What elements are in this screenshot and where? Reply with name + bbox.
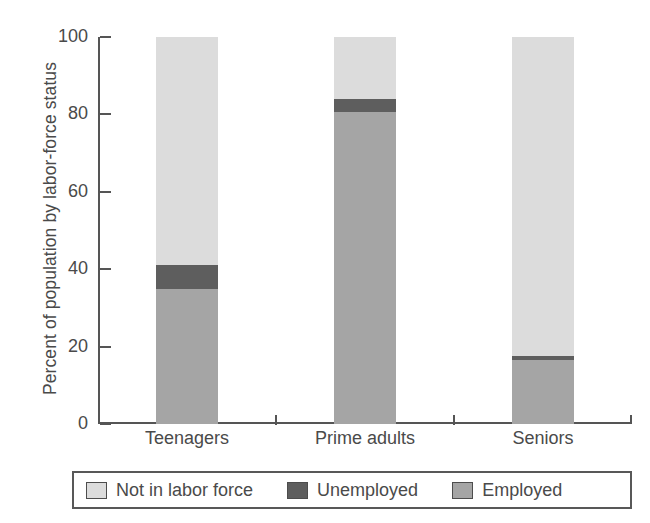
y-axis-tick	[100, 346, 111, 348]
axis-corner-tick-bottom-right	[630, 415, 632, 424]
y-axis-tick-label: 80	[34, 104, 88, 122]
bar-seniors	[512, 37, 574, 424]
x-axis-label: Prime adults	[276, 428, 454, 449]
y-axis-tick-label: 60	[34, 182, 88, 200]
legend-swatch-icon	[452, 482, 473, 499]
bar-segment-unemployed	[512, 356, 574, 360]
bar-segment-unemployed	[334, 99, 396, 113]
bar-segment-not-in-labor-force	[512, 37, 574, 356]
legend-item: Not in labor force	[86, 481, 253, 499]
y-axis-tick-label: 0	[34, 414, 88, 432]
x-axis-tick	[275, 415, 277, 425]
legend-swatch-icon	[287, 482, 308, 499]
legend-item: Unemployed	[287, 481, 418, 499]
bar-segment-employed	[334, 112, 396, 424]
y-axis-title: Percent of population by labor-force sta…	[40, 29, 61, 429]
stacked-bar-chart: Percent of population by labor-force sta…	[0, 0, 650, 523]
bar-segment-not-in-labor-force	[334, 37, 396, 99]
bar-segment-not-in-labor-force	[156, 37, 218, 265]
legend-label: Employed	[482, 481, 562, 499]
bar-segment-unemployed	[156, 265, 218, 288]
axis-corner-tick-top-left	[98, 37, 100, 46]
x-axis-label: Teenagers	[98, 428, 276, 449]
y-axis-tick	[100, 191, 111, 193]
bar-segment-employed	[156, 289, 218, 424]
y-axis-tick-label: 20	[34, 337, 88, 355]
bar-prime-adults	[334, 37, 396, 424]
bar-segment-employed	[512, 360, 574, 424]
x-axis-label: Seniors	[454, 428, 632, 449]
bar-teenagers	[156, 37, 218, 424]
legend-label: Not in labor force	[116, 481, 253, 499]
legend-swatch-icon	[86, 482, 107, 499]
chart-legend: Not in labor forceUnemployedEmployed	[72, 471, 632, 509]
y-axis-tick	[100, 36, 111, 38]
x-axis-tick	[453, 415, 455, 425]
y-axis-tick-label: 40	[34, 259, 88, 277]
y-axis-tick-label: 100	[34, 27, 88, 45]
legend-item: Employed	[452, 481, 562, 499]
y-axis-tick	[100, 113, 111, 115]
y-axis-tick	[100, 423, 111, 425]
legend-label: Unemployed	[317, 481, 418, 499]
y-axis-tick	[100, 268, 111, 270]
